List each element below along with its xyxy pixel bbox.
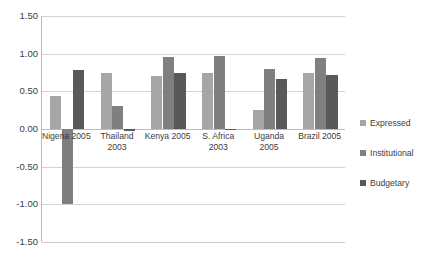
chart-legend: ExpressedInstitutionalBudgetary [360,108,426,198]
x-axis-tick-label: S. Africa 2003 [193,131,244,152]
bar [326,75,337,129]
legend-item: Budgetary [360,168,426,198]
legend-item: Institutional [360,138,426,168]
bar [214,56,225,129]
legend-label: Expressed [370,118,411,128]
x-axis-tick-label: Nigeria 2005 [41,131,92,142]
bar [50,96,61,129]
bar-chart: 1.501.000.500.00-0.50-1.00-1.50 Nigeria … [0,0,426,276]
bar [315,58,326,129]
y-axis-tick-label: 0.00 [4,124,38,134]
bar [225,129,236,130]
y-axis-tick-label: 0.50 [4,87,38,97]
legend-swatch-icon [360,180,366,186]
bar [101,73,112,129]
legend-swatch-icon [360,150,366,156]
x-axis-tick-label: Kenya 2005 [142,131,193,142]
bar [253,110,264,129]
x-axis-tick-label: Brazil 2005 [294,131,345,142]
bars-layer [42,16,345,242]
y-axis-tick-label: -1.50 [4,237,38,247]
legend-label: Budgetary [370,178,409,188]
bar [303,73,314,130]
bar [264,69,275,129]
legend-item: Expressed [360,108,426,138]
bar [276,79,287,129]
plot-area [41,16,345,242]
bar [151,76,162,129]
x-axis-category-labels: Nigeria 2005Thailand 2003Kenya 2005S. Af… [41,131,345,171]
y-axis-tick-label: 1.50 [4,11,38,21]
legend-label: Institutional [370,148,413,158]
y-axis-tick-label: 1.00 [4,49,38,59]
bar [174,73,185,129]
bar [73,70,84,129]
bar [163,57,174,129]
x-axis-tick-label: Thailand 2003 [92,131,143,152]
y-axis-tick-label: -0.50 [4,162,38,172]
legend-swatch-icon [360,120,366,126]
bar [112,106,123,129]
y-axis: 1.501.000.500.00-0.50-1.00-1.50 [0,0,38,276]
x-axis-tick-label: Uganda 2005 [244,131,295,152]
bar [202,73,213,130]
gridline [42,242,345,243]
y-axis-tick-label: -1.00 [4,200,38,210]
